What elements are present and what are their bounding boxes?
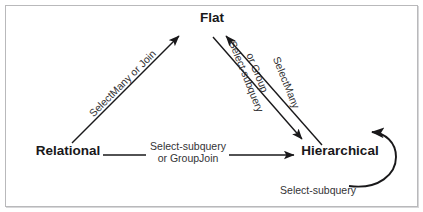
edge-hierarchical-self-loop-label: Select-subquery [280,184,357,196]
node-relational-label: Relational [36,143,101,158]
edge-hierarchical-self-loop-arc [349,132,396,187]
diagram-canvas: Relational Flat Hierarchical SelectMany … [0,0,423,212]
edge-relational-to-hierarchical-label-line2: or GroupJoin [158,152,219,164]
diagram-figure: Relational Flat Hierarchical SelectMany … [0,0,423,212]
edge-relational-to-flat-line [72,36,179,143]
edge-hierarchical-to-flat-line [226,36,322,145]
node-flat-label: Flat [200,10,225,25]
edge-relational-to-flat-label: SelectMany or Join [86,47,158,119]
edge-hierarchical-to-flat-label: SelectMany [271,55,303,111]
node-hierarchical-label: Hierarchical [301,143,378,158]
edge-relational-to-hierarchical-label-line1: Select-subquery [150,140,227,152]
